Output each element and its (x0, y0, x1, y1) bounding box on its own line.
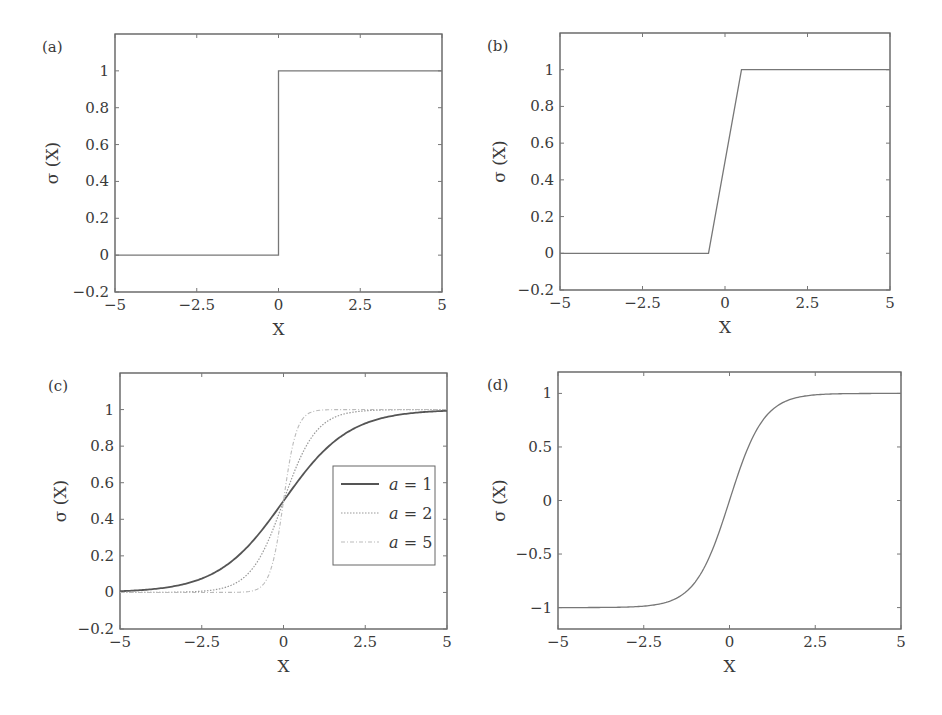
x-tick-label: 2.5 (796, 294, 820, 312)
y-tick-label: 0.8 (90, 437, 114, 455)
x-tick-label: 5 (885, 294, 895, 312)
y-tick-label: 0.4 (530, 171, 554, 189)
y-tick-label: 0 (99, 246, 109, 264)
panel-a: −5−2.502.55−0.200.20.40.60.81Xσ (X)(a) (42, 34, 447, 339)
x-tick-label: 2.5 (348, 296, 372, 314)
x-axis-label: X (719, 317, 732, 337)
panel-label: (b) (487, 37, 508, 55)
x-tick-label: 2.5 (803, 633, 827, 651)
y-tick-label: 0.4 (90, 510, 114, 528)
y-tick-label: 0.6 (85, 136, 109, 154)
y-tick-label: 0 (542, 492, 552, 510)
x-tick-label: 0 (274, 296, 284, 314)
panel-d: −5−2.502.55−1−0.500.51Xσ (X)(d) (487, 372, 906, 676)
x-axis-label: X (272, 319, 285, 339)
x-tick-label: 0 (725, 633, 735, 651)
x-tick-label: 5 (437, 296, 447, 314)
x-tick-label: −5 (547, 633, 569, 651)
y-tick-label: 0.2 (85, 209, 109, 227)
series-line-piecewise-linear (560, 70, 890, 254)
y-tick-label: 0.4 (85, 172, 109, 190)
y-tick-label: 1 (99, 62, 109, 80)
x-axis-label: X (723, 656, 736, 676)
panel-label: (d) (487, 376, 508, 394)
panel-label: (a) (42, 38, 63, 56)
y-tick-label: −0.5 (516, 545, 552, 563)
x-tick-label: −2.5 (626, 633, 662, 651)
panel-c: −5−2.502.55−0.200.20.40.60.81Xσ (X)(c)a … (48, 373, 452, 676)
x-axis-label: X (277, 656, 290, 676)
x-tick-label: −2.5 (624, 294, 660, 312)
y-axis-label: σ (X) (489, 479, 509, 521)
y-tick-label: 0.2 (90, 547, 114, 565)
y-tick-label: 0.6 (530, 134, 554, 152)
x-tick-label: 0 (720, 294, 730, 312)
y-tick-label: 0.2 (530, 208, 554, 226)
x-tick-label: 2.5 (353, 633, 377, 651)
y-tick-label: 0.8 (530, 97, 554, 115)
panel-label: (c) (48, 377, 68, 395)
series-line-tanh (558, 393, 901, 607)
y-tick-label: −1 (530, 599, 552, 617)
x-tick-label: −2.5 (184, 633, 220, 651)
y-axis-label: σ (X) (489, 140, 509, 182)
x-tick-label: 0 (279, 633, 289, 651)
y-tick-label: 1 (542, 384, 552, 402)
y-tick-label: 1 (544, 61, 554, 79)
y-axis-label: σ (X) (50, 480, 70, 522)
y-tick-label: 0.8 (85, 99, 109, 117)
y-axis-label: σ (X) (42, 142, 62, 184)
y-tick-label: −0.2 (73, 283, 109, 301)
legend: a = 1a = 2a = 5 (333, 466, 435, 565)
y-tick-label: −0.2 (518, 281, 554, 299)
panel-b: −5−2.502.55−0.200.20.40.60.81Xσ (X)(b) (487, 33, 895, 337)
figure: −5−2.502.55−0.200.20.40.60.81Xσ (X)(a)−5… (0, 0, 942, 715)
y-tick-label: 0 (544, 244, 554, 262)
y-tick-label: 0 (104, 583, 114, 601)
series-line-step (115, 71, 442, 255)
x-tick-label: 5 (896, 633, 906, 651)
legend-entry-label: a = 2 (389, 504, 432, 523)
legend-entry-label: a = 5 (389, 533, 432, 552)
x-tick-label: 5 (442, 633, 452, 651)
y-tick-label: 1 (104, 401, 114, 419)
y-tick-label: −0.2 (78, 620, 114, 638)
y-tick-label: 0.6 (90, 474, 114, 492)
y-tick-label: 0.5 (528, 438, 552, 456)
legend-entry-label: a = 1 (389, 475, 432, 494)
x-tick-label: −2.5 (179, 296, 215, 314)
